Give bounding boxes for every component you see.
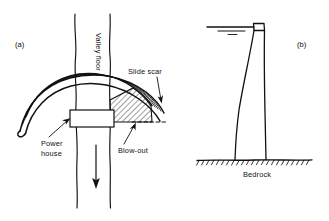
bedrock-label: Bedrock (243, 170, 271, 179)
valley-floor-label: Valley floor (94, 33, 103, 71)
power-house-label-line2: house (41, 149, 62, 158)
power-house-rect (70, 110, 114, 127)
panel-b-label: (b) (297, 40, 307, 49)
blow-out-label: Blow-out (118, 146, 148, 155)
figure-background (0, 0, 329, 221)
slide-scar-label: Slide scar (128, 67, 162, 76)
power-house-label-line1: Power (41, 139, 63, 148)
dam-failure-diagram: (a) Valley floor Slide scar Power house … (0, 0, 329, 221)
panel-a-label: (a) (15, 40, 25, 49)
figure-root: (a) Valley floor Slide scar Power house … (0, 0, 329, 221)
